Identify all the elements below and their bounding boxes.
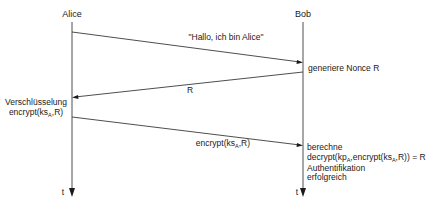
- participant-bob-label: Bob: [295, 9, 311, 19]
- bob-decrypt-tail: ,R)) = R: [396, 152, 426, 162]
- alice-time-arrow-icon: [69, 188, 75, 197]
- bob-decrypt-fn: decrypt(kp: [307, 152, 347, 162]
- message-encrypt-label: encrypt(ksA,R): [196, 138, 250, 149]
- message-hello-arrowhead-icon: [297, 60, 304, 64]
- message-encrypt-arrowhead-icon: [297, 143, 304, 147]
- alice-encrypt-fn: encrypt(ks: [9, 107, 48, 117]
- alice-encrypt-note-line1: Verschlüsselung: [5, 97, 67, 107]
- bob-compute-note-line1: berechne: [307, 142, 343, 152]
- bob-time-label: t: [296, 187, 299, 197]
- message-hello-arrow: [72, 32, 300, 62]
- bob-auth-note-line2: erfolgreich: [307, 172, 347, 182]
- message-encrypt-arrow: [72, 117, 300, 145]
- message-encrypt-tail: ,R): [239, 138, 251, 148]
- bob-decrypt-encrypt: ,encrypt(ks: [350, 152, 392, 162]
- bob-compute-note-line2: decrypt(kpA,encrypt(ksA,R)) = R: [307, 152, 426, 163]
- message-hello-label: "Hallo, ich bin Alice": [188, 32, 263, 42]
- alice-encrypt-tail: ,R): [52, 107, 64, 117]
- bob-nonce-note: generiere Nonce R: [308, 63, 379, 73]
- message-r-label: R: [187, 85, 193, 95]
- alice-encrypt-note-line2: encrypt(ksA,R): [9, 107, 63, 118]
- bob-time-arrow-icon: [300, 188, 306, 197]
- message-encrypt-fn: encrypt(ks: [196, 138, 235, 148]
- message-r-arrowhead-icon: [72, 95, 79, 99]
- sequence-diagram: Alice Bob t t "Hallo, ich bin Alice" gen…: [0, 0, 435, 209]
- alice-time-label: t: [62, 187, 65, 197]
- participant-alice-label: Alice: [62, 9, 82, 19]
